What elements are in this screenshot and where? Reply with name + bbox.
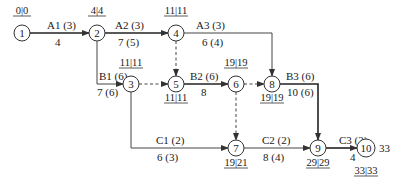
node-2-times: 4|4	[91, 5, 104, 16]
nodes: 1 2 3 4 5 6 7 8	[14, 25, 375, 157]
activity-a3-duration: 6 (4)	[202, 36, 223, 49]
activity-c1-duration: 6 (3)	[157, 151, 178, 164]
activity-c3-duration: 4	[350, 151, 356, 163]
svg-text:7: 7	[233, 142, 239, 154]
node-6: 6	[228, 76, 244, 92]
activity-c2-name: C2 (2)	[262, 134, 291, 147]
node-10: 10	[357, 139, 375, 157]
node-7: 7	[228, 140, 244, 156]
node-5: 5	[168, 76, 184, 92]
activity-a1-name: A1 (3)	[47, 19, 76, 32]
project-duration: 33	[379, 142, 391, 154]
network-diagram: A1 (3) 4 A2 (3) 7 (5) A3 (3) 6 (4) B1 (6…	[0, 0, 418, 184]
svg-text:8: 8	[269, 78, 275, 90]
activity-c2-duration: 8 (4)	[263, 151, 284, 164]
node-2: 2	[89, 25, 105, 41]
activity-a1-duration: 4	[55, 36, 61, 48]
activity-b3-name: B3 (6)	[286, 70, 315, 83]
activity-b3-duration: 10 (6)	[287, 86, 314, 99]
activity-a2-name: A2 (3)	[115, 19, 144, 32]
svg-text:6: 6	[233, 78, 239, 90]
node-4-times: 11|11	[165, 5, 187, 16]
node-9: 9	[310, 140, 326, 156]
diagram-canvas: A1 (3) 4 A2 (3) 7 (5) A3 (3) 6 (4) B1 (6…	[0, 0, 418, 184]
activity-b1-duration: 7 (6)	[97, 86, 118, 99]
svg-text:3: 3	[128, 78, 134, 90]
svg-text:9: 9	[315, 142, 321, 154]
activity-b2-duration: 8	[201, 86, 207, 98]
node-7-times: 19|21	[224, 157, 247, 168]
activity-b2-name: B2 (6)	[190, 70, 219, 83]
svg-text:5: 5	[173, 78, 179, 90]
activity-a3-name: A3 (3)	[196, 19, 225, 32]
node-8-times: 19|19	[260, 92, 283, 103]
node-1: 1	[14, 25, 30, 41]
activity-c1-name: C1 (2)	[156, 134, 185, 147]
node-8: 8	[264, 76, 280, 92]
node-9-times: 29|29	[306, 157, 329, 168]
svg-text:2: 2	[94, 27, 100, 39]
svg-text:1: 1	[19, 27, 25, 39]
activity-a2-duration: 7 (5)	[118, 36, 139, 49]
node-4: 4	[168, 25, 184, 41]
node-3: 3	[123, 76, 139, 92]
node-3-times: 11|11	[120, 57, 142, 68]
svg-text:4: 4	[173, 27, 179, 39]
node-5-times: 11|11	[165, 92, 187, 103]
svg-text:10: 10	[361, 142, 373, 154]
node-10-times: 33|33	[354, 165, 377, 176]
node-6-times: 19|19	[224, 57, 247, 68]
node-1-times: 0|0	[16, 5, 29, 16]
